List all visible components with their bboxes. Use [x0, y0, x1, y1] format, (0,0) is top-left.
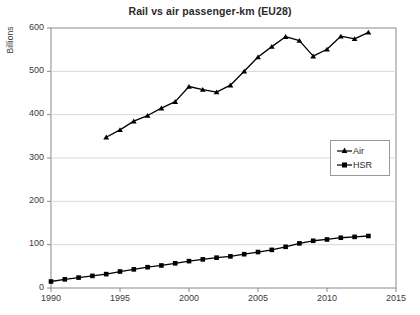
data-point-hsr-2011 — [339, 235, 344, 240]
data-point-hsr-1995 — [118, 269, 123, 274]
data-point-hsr-1998 — [159, 263, 164, 268]
data-point-hsr-1991 — [63, 277, 68, 282]
data-point-hsr-2009 — [311, 238, 316, 243]
data-point-hsr-2004 — [242, 252, 247, 257]
data-point-hsr-2003 — [228, 254, 233, 259]
data-point-hsr-1999 — [173, 261, 178, 266]
data-point-hsr-2000 — [187, 259, 192, 264]
data-point-hsr-1990 — [49, 279, 54, 284]
x-axis-ticks — [51, 288, 396, 292]
data-point-hsr-2012 — [352, 235, 357, 240]
legend-label-air: Air — [353, 145, 364, 157]
data-point-hsr-2006 — [270, 248, 275, 253]
legend-item-air[interactable]: Air — [331, 144, 389, 158]
data-point-hsr-2005 — [256, 250, 261, 255]
legend-label-hsr: HSR — [353, 159, 372, 171]
data-point-hsr-2010 — [325, 237, 330, 242]
chart-container: Rail vs air passenger-km (EU28) Billions… — [0, 0, 420, 315]
triangle-marker-icon — [336, 145, 353, 157]
data-point-hsr-2013 — [366, 234, 371, 239]
legend-item-hsr[interactable]: HSR — [331, 158, 389, 172]
data-point-hsr-1996 — [132, 267, 137, 272]
data-point-hsr-2001 — [201, 257, 206, 262]
data-point-hsr-2002 — [214, 255, 219, 260]
data-point-hsr-1997 — [145, 265, 150, 270]
data-point-hsr-2007 — [283, 245, 288, 250]
data-point-hsr-1993 — [90, 274, 95, 279]
chart-legend: Air HSR — [330, 140, 390, 176]
data-point-hsr-1992 — [76, 275, 81, 280]
data-point-hsr-2008 — [297, 241, 302, 246]
data-point-hsr-1994 — [104, 272, 109, 277]
square-marker-icon — [336, 159, 353, 171]
y-axis-ticks — [47, 28, 51, 288]
